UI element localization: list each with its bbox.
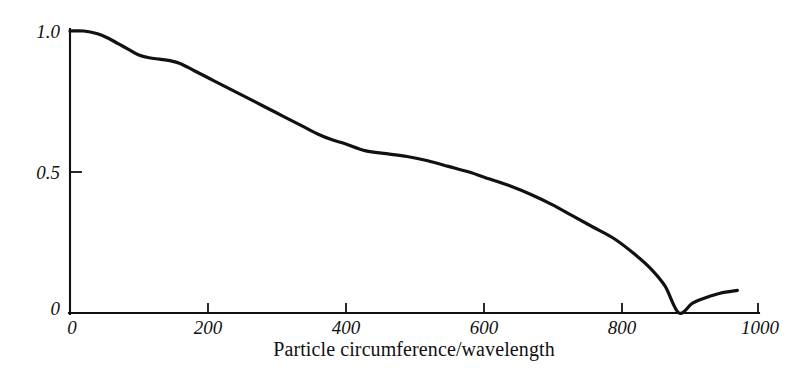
x-tick-label-400: 400: [332, 318, 361, 337]
y-tick-label-1.0: 1.0: [18, 22, 60, 41]
x-tick-label-600: 600: [470, 318, 499, 337]
y-tick-label-0.5: 0.5: [18, 163, 60, 182]
x-tick-label-800: 800: [608, 318, 637, 337]
x-tick-label-200: 200: [194, 318, 223, 337]
visibility-line-chart: [0, 0, 794, 372]
x-tick-label-1000: 1000: [741, 318, 779, 337]
y-tick-label-0: 0: [18, 299, 60, 318]
visibility-curve: [70, 31, 737, 314]
x-tick-label-0: 0: [67, 318, 77, 337]
chart-figure: 1.0 0.5 0 0 200 400 600 800 1000 Particl…: [0, 0, 794, 372]
x-axis-title: Particle circumference/wavelength: [70, 338, 758, 361]
